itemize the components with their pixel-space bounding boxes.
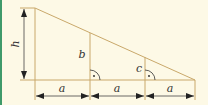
label-a-2: a [114,82,121,95]
right-angle-dot-b [93,75,95,77]
label-b: b [78,48,85,61]
label-a-3: a [167,82,174,95]
right-angle-dot-c [148,75,150,77]
hypotenuse [35,8,195,80]
right-angle-b-icon [90,70,100,80]
diagram-frame: h b c a a a [0,0,208,105]
label-c: c [136,62,142,75]
right-angle-c-icon [145,70,155,80]
label-a-1: a [59,82,66,95]
label-h: h [9,40,22,47]
triangle-diagram: h b c a a a [0,0,208,105]
